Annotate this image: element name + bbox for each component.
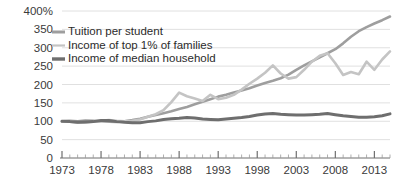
y-axis-tick-label: 150 (34, 97, 53, 109)
x-axis-tick-label: 2008 (323, 164, 349, 176)
line-chart: 050100150200250300350400% 19731978198319… (0, 0, 396, 194)
x-axis-tick-label: 2003 (283, 164, 309, 176)
legend-label: Income of top 1% of families (68, 39, 213, 51)
legend-label: Income of median household (68, 52, 216, 64)
y-axis-tick-label: 200 (34, 79, 53, 91)
y-axis-tick-label: 100 (34, 115, 53, 127)
y-axis-tick-label: 300 (34, 42, 53, 54)
y-axis-tick-label: 50 (40, 134, 53, 146)
chart-container: 050100150200250300350400% 19731978198319… (0, 0, 396, 194)
x-axis-labels-group: 197319781983198819931998200320082013 (49, 164, 387, 176)
legend-label: Tuition per student (68, 25, 164, 37)
x-axis-tick-label: 1993 (205, 164, 231, 176)
x-axis-tick-label: 1998 (244, 164, 270, 176)
y-axis-tick-label: 400% (24, 5, 53, 17)
x-axis-tick-label: 1978 (88, 164, 114, 176)
x-axis-tick-label: 2013 (362, 164, 388, 176)
chart-legend: Tuition per studentIncome of top 1% of f… (52, 25, 216, 64)
x-axis-group (60, 151, 390, 158)
x-axis-tick-label: 1988 (166, 164, 192, 176)
y-axis-tick-label: 350 (34, 23, 53, 35)
x-axis-tick-label: 1973 (49, 164, 75, 176)
y-axis-tick-label: 0 (47, 152, 53, 164)
x-axis-tick-label: 1983 (127, 164, 153, 176)
y-axis-tick-label: 250 (34, 60, 53, 72)
y-axis-labels-group: 050100150200250300350400% (24, 5, 53, 164)
